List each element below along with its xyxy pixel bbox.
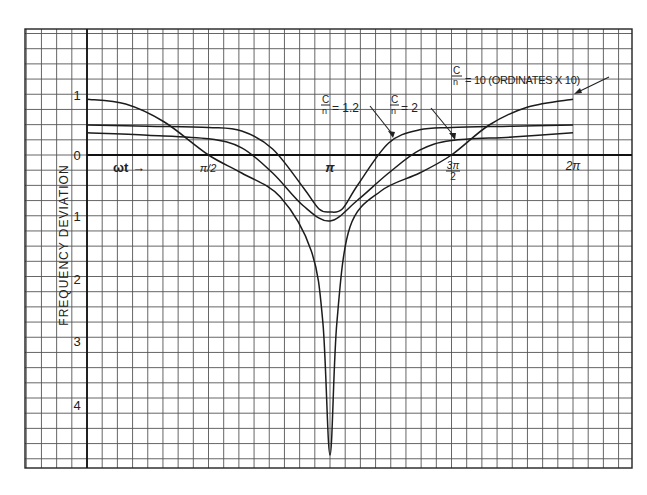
frequency-deviation-chart: 1 0 1 2 3 4 FREQUENCY DEVIATION ωt → π/2…	[0, 0, 647, 495]
svg-text:C: C	[391, 94, 398, 105]
svg-text:n: n	[453, 77, 458, 87]
svg-text:n: n	[391, 106, 396, 116]
y-tick-neg1: 1	[73, 209, 80, 224]
y-tick-neg3: 3	[73, 334, 80, 349]
x-tick-3pi-half-num: 3π	[447, 160, 460, 171]
x-tick-3pi-half-den: 2	[450, 171, 456, 182]
svg-text:C: C	[453, 65, 460, 76]
svg-text:= 1.2: = 1.2	[332, 101, 359, 115]
x-tick-pi-half: π/2	[200, 162, 217, 174]
x-tick-2pi: 2π	[565, 159, 582, 173]
y-axis-label: FREQUENCY DEVIATION	[57, 164, 71, 325]
x-axis-label: ωt →	[113, 160, 145, 175]
annotation-cn-2: C n = 2	[390, 94, 456, 140]
x-tick-pi: π	[325, 160, 335, 175]
annotation-cn-1-2: C n = 1.2	[321, 94, 395, 138]
svg-text:= 10 (ORDINATES X 10): = 10 (ORDINATES X 10)	[465, 74, 580, 86]
y-tick-1: 1	[73, 88, 80, 103]
y-tick-neg4: 4	[73, 398, 80, 413]
y-tick-neg2: 2	[73, 272, 80, 287]
svg-text:= 2: = 2	[401, 101, 418, 115]
svg-text:n: n	[322, 106, 327, 116]
y-tick-0: 0	[73, 148, 80, 163]
svg-text:C: C	[322, 94, 329, 105]
